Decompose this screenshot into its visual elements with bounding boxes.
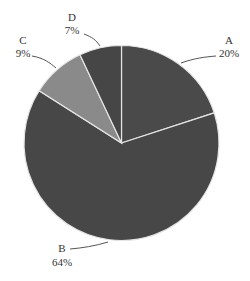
leader-line-c <box>32 56 56 68</box>
pie-chart: A 20% B 64% C 9% D 7% <box>0 0 250 281</box>
leader-line-d <box>84 34 100 46</box>
label-c-pct: 9% <box>16 47 31 59</box>
label-a-name: A <box>225 34 233 46</box>
label-d-pct: 7% <box>65 24 80 36</box>
label-d-name: D <box>68 11 76 23</box>
label-a-pct: 20% <box>219 47 239 59</box>
label-b-pct: 64% <box>52 256 72 268</box>
leader-line-a <box>181 56 216 63</box>
leader-line-b <box>70 242 108 249</box>
pie-slices <box>24 46 219 241</box>
label-c-name: C <box>19 34 26 46</box>
label-b-name: B <box>58 242 65 254</box>
